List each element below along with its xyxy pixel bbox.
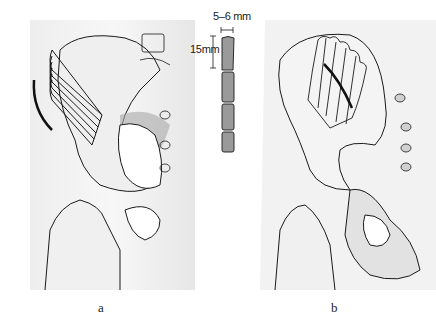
pelvis-illustration-b: [240, 20, 436, 300]
panel-label-a: a: [98, 300, 104, 316]
panel-label-b: b: [331, 300, 338, 316]
panel-a: a: [20, 20, 200, 290]
panel-b: b: [240, 20, 436, 300]
pelvis-illustration-a: [20, 20, 200, 290]
